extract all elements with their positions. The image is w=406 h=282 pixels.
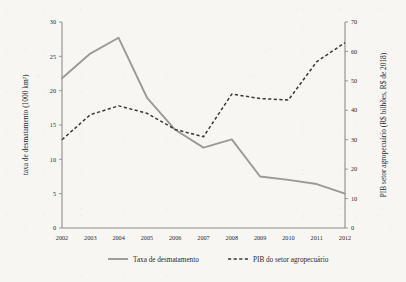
right-axis-tick-label: 60 (351, 48, 357, 55)
x-axis-tick-label: 2011 (311, 234, 323, 241)
right-axis-tick-label: 0 (351, 224, 354, 231)
x-axis-tick-label: 2002 (56, 234, 68, 241)
right-axis-tick-label: 20 (351, 165, 357, 172)
x-axis-tick-label: 2008 (226, 234, 238, 241)
x-axis-tick-label: 2003 (84, 234, 96, 241)
left-axis-tick-label: 10 (50, 156, 56, 163)
left-axis-tick-label: 20 (50, 87, 56, 94)
x-axis-tick-label: 2007 (197, 234, 209, 241)
right-axis-tick-label: 10 (351, 195, 357, 202)
x-axis-tick-label: 2012 (339, 234, 351, 241)
right-axis-tick-label: 40 (351, 106, 357, 113)
left-axis-tick-label: 30 (50, 18, 56, 25)
right-axis-title: PIB setor agropecuário (R$ bilhões, R$ d… (379, 52, 388, 197)
right-axis-tick-label: 50 (351, 77, 357, 84)
chart-figure: 0510152025300102030405060702002200320042… (0, 0, 406, 282)
left-axis-tick-label: 15 (50, 121, 56, 128)
series-line-dashed (62, 43, 345, 140)
legend-label-0: Taxa de desmatamento (133, 256, 199, 264)
series-line-solid (62, 38, 345, 194)
x-axis-tick-label: 2009 (254, 234, 266, 241)
right-axis-tick-label: 70 (351, 18, 357, 25)
left-axis-tick-label: 0 (53, 224, 56, 231)
left-axis-tick-label: 5 (53, 190, 56, 197)
right-axis-tick-label: 30 (351, 136, 357, 143)
x-axis-tick-label: 2004 (112, 234, 124, 241)
x-axis-tick-label: 2005 (141, 234, 153, 241)
x-axis-tick-label: 2006 (169, 234, 181, 241)
x-axis-tick-label: 2010 (282, 234, 294, 241)
left-axis-title: taxa de desmatamento (1000 km²) (21, 74, 30, 175)
legend-label-1: PIB do setor agropecuário (253, 256, 329, 264)
left-axis-tick-label: 25 (50, 53, 56, 60)
line-chart: 0510152025300102030405060702002200320042… (0, 0, 406, 282)
